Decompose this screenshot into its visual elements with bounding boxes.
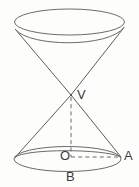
- base-label-b: B: [66, 170, 75, 183]
- apex-point-marker: [70, 94, 72, 96]
- lower-right-slant-line: [71, 95, 121, 157]
- double-cone-figure: V O A B: [0, 0, 139, 187]
- base-point-label-a: A: [124, 149, 133, 162]
- apex-label-v: V: [77, 88, 86, 101]
- upper-right-slant-line: [71, 28, 124, 96]
- base-center-label-o: O: [60, 149, 70, 162]
- upper-left-slant-line: [16, 30, 72, 96]
- top-rim-ellipse: [15, 9, 125, 35]
